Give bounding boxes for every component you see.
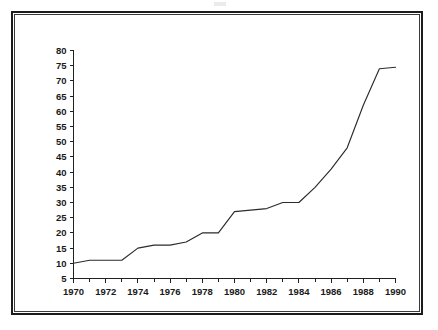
x-tick-label: 1970 (63, 286, 84, 297)
figure-root: 5101520253035404550556065707580 19701972… (0, 0, 438, 330)
y-tick-label: 80 (56, 45, 67, 56)
x-tick-label: 1976 (160, 286, 181, 297)
y-axis-tick-labels: 5101520253035404550556065707580 (56, 45, 67, 284)
y-axis-ticks (70, 51, 74, 279)
y-tick-label: 75 (56, 60, 67, 71)
y-tick-label: 65 (56, 91, 67, 102)
line-chart-svg: 5101520253035404550556065707580 19701972… (0, 0, 438, 330)
y-tick-label: 10 (56, 258, 67, 269)
y-tick-label: 50 (56, 136, 67, 147)
x-tick-label: 1982 (256, 286, 277, 297)
x-tick-label: 1986 (321, 286, 342, 297)
x-tick-label: 1990 (385, 286, 406, 297)
y-tick-label: 45 (56, 151, 67, 162)
y-tick-label: 25 (56, 212, 67, 223)
y-tick-label: 40 (56, 167, 67, 178)
y-axis: 5101520253035404550556065707580 (56, 45, 74, 284)
x-tick-label: 1984 (288, 286, 310, 297)
x-tick-label: 1972 (95, 286, 116, 297)
x-tick-label: 1974 (127, 286, 149, 297)
x-tick-label: 1978 (192, 286, 213, 297)
x-axis-tick-labels: 1970197219741976197819801982198419861988… (63, 286, 406, 297)
y-tick-label: 55 (56, 121, 67, 132)
x-tick-label: 1988 (353, 286, 374, 297)
y-tick-label: 60 (56, 106, 67, 117)
x-axis-ticks (74, 279, 396, 284)
y-tick-label: 30 (56, 197, 67, 208)
y-tick-label: 5 (61, 273, 67, 284)
y-tick-label: 20 (56, 227, 67, 238)
chart-plot-area: 5101520253035404550556065707580 19701972… (0, 0, 438, 330)
data-series-line (74, 67, 396, 263)
data-series-group (74, 67, 396, 263)
x-tick-label: 1980 (224, 286, 245, 297)
y-tick-label: 35 (56, 182, 67, 193)
y-tick-label: 70 (56, 75, 67, 86)
y-tick-label: 15 (56, 243, 67, 254)
x-axis: 1970197219741976197819801982198419861988… (63, 279, 406, 297)
